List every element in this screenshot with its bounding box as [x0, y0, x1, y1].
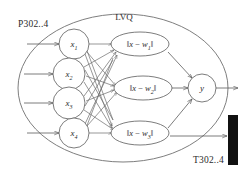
lvq-network-diagram: LVQ P302..4 T302..4 x1 x2 x3 x4 ‖x − w1‖… — [0, 0, 243, 175]
interconnect-web — [84, 44, 117, 133]
target-group-label: T302..4 — [193, 155, 224, 165]
input-arrows — [24, 44, 59, 133]
input-group-label: P302..4 — [18, 19, 48, 29]
output-node-label: y — [199, 83, 204, 93]
diagram-canvas: LVQ P302..4 T302..4 x1 x2 x3 x4 ‖x − w1‖… — [0, 0, 243, 175]
diagram-title: LVQ — [115, 12, 133, 22]
target-bar — [228, 115, 238, 165]
